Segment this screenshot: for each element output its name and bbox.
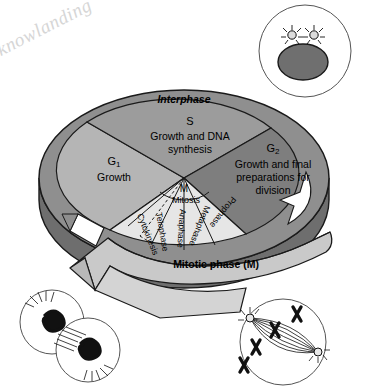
metaphase-anaphase-illustration bbox=[238, 299, 330, 385]
s-description-line2: synthesis bbox=[168, 143, 212, 155]
cell-cycle-diagram: Interphase G1 Growth S Growth and DNA sy… bbox=[0, 0, 368, 390]
g2-description-line1: Growth and final bbox=[235, 158, 311, 170]
g2-description-line2: preparations for bbox=[236, 171, 310, 183]
telophase-cytokinesis-illustration bbox=[20, 290, 120, 382]
mitosis-symbol: M bbox=[180, 183, 188, 194]
g2-description-line3: division bbox=[255, 184, 290, 196]
s-symbol: S bbox=[186, 115, 193, 127]
g1-description: Growth bbox=[97, 171, 131, 183]
interphase-label: Interphase bbox=[157, 93, 210, 105]
interphase-cell-illustration bbox=[259, 5, 351, 97]
mitotic-phase-band-label: Mitotic phase (M) bbox=[173, 258, 259, 270]
cell-cycle-figure: knowlanding bbox=[0, 0, 368, 390]
s-description-line1: Growth and DNA bbox=[150, 130, 229, 142]
mitosis-label: Mitosis bbox=[172, 195, 201, 205]
nucleus-shape bbox=[278, 44, 328, 80]
